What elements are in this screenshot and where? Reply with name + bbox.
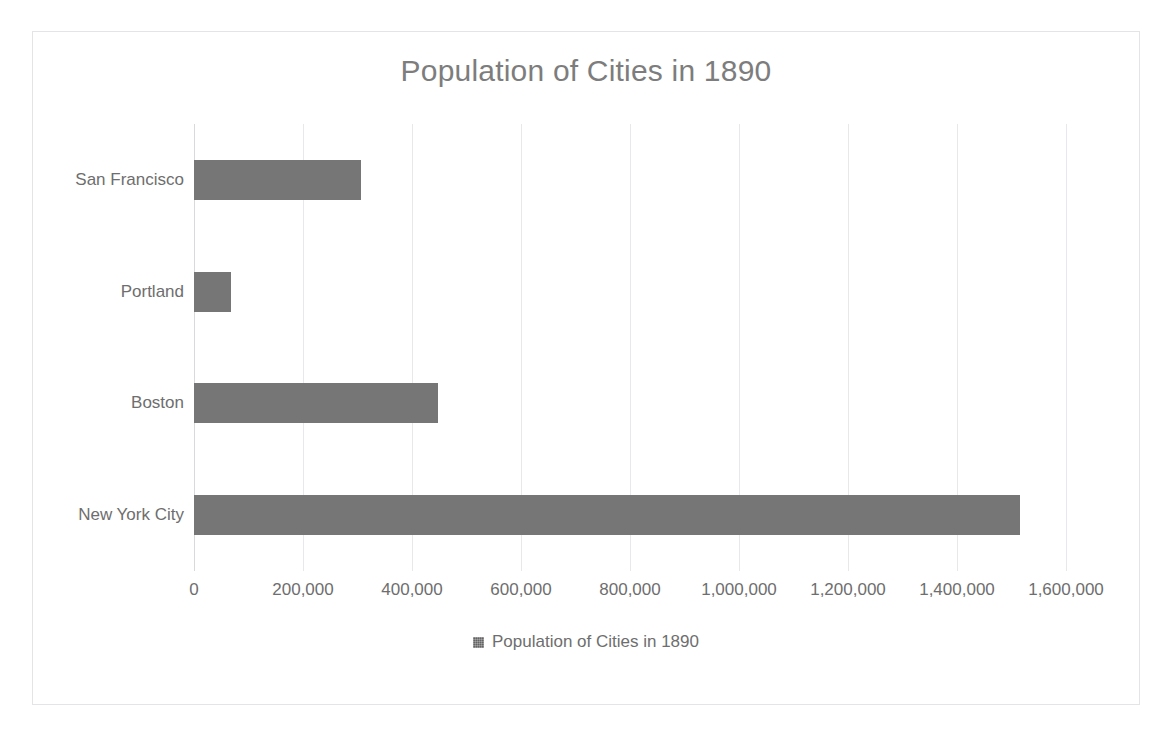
- gridline: [1066, 124, 1067, 571]
- bar[interactable]: [194, 383, 438, 423]
- chart-title: Population of Cities in 1890: [33, 54, 1139, 88]
- bar-slot: [194, 348, 1066, 460]
- x-tick-label: 1,000,000: [701, 580, 777, 600]
- category-label: San Francisco: [4, 170, 184, 190]
- x-tick-label: 600,000: [490, 580, 551, 600]
- legend-swatch-icon: [473, 637, 484, 648]
- category-label: Boston: [4, 393, 184, 413]
- x-tick-label: 1,200,000: [810, 580, 886, 600]
- x-tick-label: 1,400,000: [919, 580, 995, 600]
- x-tick-label: 200,000: [272, 580, 333, 600]
- bar-slot: [194, 124, 1066, 236]
- category-label: New York City: [4, 505, 184, 525]
- bar[interactable]: [194, 495, 1020, 535]
- x-tick-label: 400,000: [381, 580, 442, 600]
- bar[interactable]: [194, 272, 231, 312]
- x-axis-tick-labels: 0200,000400,000600,000800,0001,000,0001,…: [194, 580, 1066, 610]
- chart-legend: Population of Cities in 1890: [33, 632, 1139, 652]
- chart-container: Population of Cities in 1890 New York Ci…: [32, 31, 1140, 705]
- bar-slot: [194, 459, 1066, 571]
- category-label: Portland: [4, 282, 184, 302]
- category-axis-labels: New York CityBostonPortlandSan Francisco: [33, 124, 184, 571]
- bar[interactable]: [194, 160, 361, 200]
- x-tick-label: 1,600,000: [1028, 580, 1104, 600]
- bar-slot: [194, 236, 1066, 348]
- x-tick-label: 0: [189, 580, 198, 600]
- x-tick-label: 800,000: [599, 580, 660, 600]
- legend-entry-label: Population of Cities in 1890: [492, 632, 699, 652]
- plot-area: [194, 124, 1066, 571]
